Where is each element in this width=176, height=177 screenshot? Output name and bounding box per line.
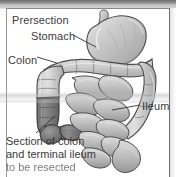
label-stomach: Stomach [31, 30, 75, 43]
label-colon: Colon [8, 54, 37, 67]
stomach-organ [87, 10, 146, 66]
label-ileum: Ileum [142, 100, 169, 113]
caption-line-2: and terminal ileum [6, 148, 96, 161]
leader-line-colon [37, 57, 57, 63]
prersection-figure: Prersection Stomach Colon Ileum Section … [0, 0, 176, 177]
caption-resected-section: Section of colon and terminal ileum to b… [6, 135, 96, 174]
panel-right-margin [170, 8, 176, 177]
descending-colon [37, 66, 64, 98]
caption-line-3: to be resected [6, 161, 96, 174]
panel-title-prersection: Prersection [12, 14, 69, 27]
panel-top-rule [6, 8, 170, 9]
panel-right-rule [169, 8, 170, 177]
caption-line-1: Section of colon [6, 135, 96, 148]
